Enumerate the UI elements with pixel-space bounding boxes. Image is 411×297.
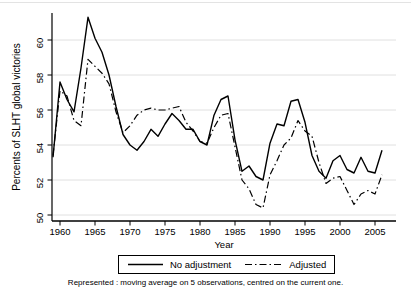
legend: No adjustment Adjusted [118, 255, 335, 274]
x-axis-title: Year [214, 239, 233, 250]
series-line-no-adjustment [53, 17, 382, 180]
x-tick-label-1990: 1990 [259, 226, 280, 237]
x-tick-label-2005: 2005 [364, 226, 385, 237]
y-tick-label-56: 56 [34, 108, 45, 119]
x-tick-label-1995: 1995 [294, 226, 315, 237]
y-tick-label-52: 52 [34, 178, 45, 189]
top-border-rule [0, 2, 411, 3]
y-tick-label-58: 58 [34, 73, 45, 84]
legend-label-adjusted: Adjusted [289, 260, 326, 270]
figure-caption: Represented : moving average on 5 observ… [0, 278, 411, 287]
x-tick-label-1980: 1980 [189, 226, 210, 237]
dash-dot-line-swatch [244, 260, 283, 269]
y-tick-label-54: 54 [34, 143, 45, 154]
x-tick-label-1970: 1970 [119, 226, 140, 237]
chart-svg: 5052545658601960196519701975198019851990… [0, 0, 411, 252]
solid-line-swatch [127, 260, 164, 269]
x-tick-label-2000: 2000 [329, 226, 350, 237]
x-tick-label-1965: 1965 [84, 226, 105, 237]
x-tick-label-1960: 1960 [49, 226, 70, 237]
y-tick-label-50: 50 [34, 213, 45, 224]
legend-label-no-adjustment: No adjustment [170, 260, 231, 270]
stata-line-chart-figure: 5052545658601960196519701975198019851990… [0, 0, 411, 297]
y-axis-title: Percents of SLHT global victories [11, 43, 22, 191]
series-line-adjusted [53, 59, 382, 208]
x-tick-label-1985: 1985 [224, 226, 245, 237]
x-tick-label-1975: 1975 [154, 226, 175, 237]
y-tick-label-60: 60 [34, 38, 45, 49]
